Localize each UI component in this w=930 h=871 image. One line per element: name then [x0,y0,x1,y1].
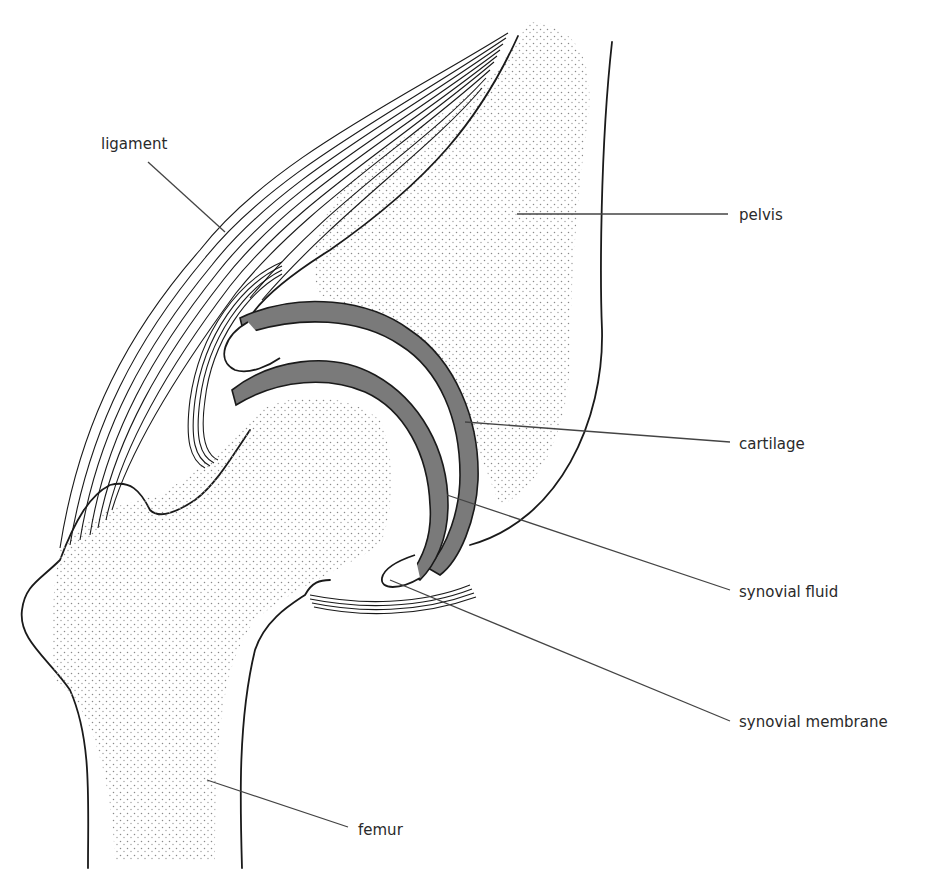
label-pelvis: pelvis [739,206,783,224]
hip-joint-diagram: ligament pelvis cartilage synovial fluid… [0,0,930,871]
label-cartilage: cartilage [739,435,805,453]
leader-ligament [148,162,225,232]
label-synovial-fluid: synovial fluid [739,583,838,601]
leader-femur [207,780,348,827]
leader-synovial-membrane [390,580,730,721]
label-ligament: ligament [101,135,167,153]
label-synovial-membrane: synovial membrane [739,713,888,731]
label-femur: femur [358,821,404,839]
leader-synovial-fluid [447,495,730,590]
